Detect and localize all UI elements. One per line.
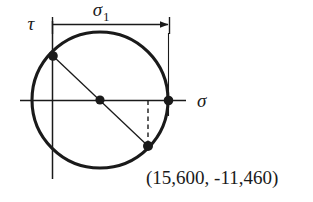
coordinate-annotation-label: (15,600, -11,460) bbox=[146, 167, 278, 189]
sigma1-subscript: 1 bbox=[103, 9, 110, 24]
principal-stress-point-dot bbox=[164, 96, 174, 106]
mohr-circle-figure: σ τ σ 1 (15,600, -11,460) bbox=[0, 0, 313, 202]
lower-right-point-dot bbox=[143, 141, 153, 151]
upper-left-point-dot bbox=[48, 51, 58, 61]
sigma1-symbol: σ bbox=[93, 0, 103, 20]
mohr-circle-canvas: σ τ σ 1 (15,600, -11,460) bbox=[0, 0, 313, 202]
sigma1-dimension-label: σ 1 bbox=[93, 0, 110, 24]
sigma-axis-label: σ bbox=[197, 90, 207, 111]
tau-axis-label: τ bbox=[28, 13, 36, 34]
center-point-dot bbox=[95, 95, 104, 104]
